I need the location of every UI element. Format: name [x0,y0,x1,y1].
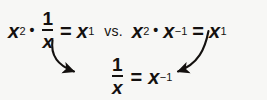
comparator-vs: vs. [104,23,123,39]
right-second-base-x: x [163,20,174,43]
left-base-x: x [8,20,19,43]
right-expression: x2 • x−1 = x1 [132,20,227,43]
right-base-x: x [132,20,143,43]
conclusion-equation: 1 x = x−1 [109,56,172,99]
right-equals-sign: = [192,20,204,43]
left-expression: x2 • 1 x = x1 [8,10,94,53]
conclusion-fraction-one-over-x: 1 x [112,55,123,98]
conclusion-fraction-numerator: 1 [112,55,123,74]
left-fraction-denominator: x [42,32,53,51]
left-fraction-numerator: 1 [42,9,53,28]
right-multiplication-dot: • [153,22,158,38]
conclusion-fraction-denominator: x [112,78,123,97]
top-equation-row: x2 • 1 x = x1 vs. x2 • x−1 = x1 [8,10,227,53]
vs-label: vs. [104,23,123,39]
right-result-base-x: x [209,20,220,43]
conclusion-equals-sign: = [131,66,143,89]
left-result-base-x: x [77,20,88,43]
left-equals-sign: = [60,20,72,43]
left-fraction-one-over-x: 1 x [42,9,53,52]
conclusion-result-base-x: x [148,66,159,89]
left-multiplication-dot: • [30,22,35,38]
equation-comparison-figure: x2 • 1 x = x1 vs. x2 • x−1 = x1 1 x [0,0,267,100]
